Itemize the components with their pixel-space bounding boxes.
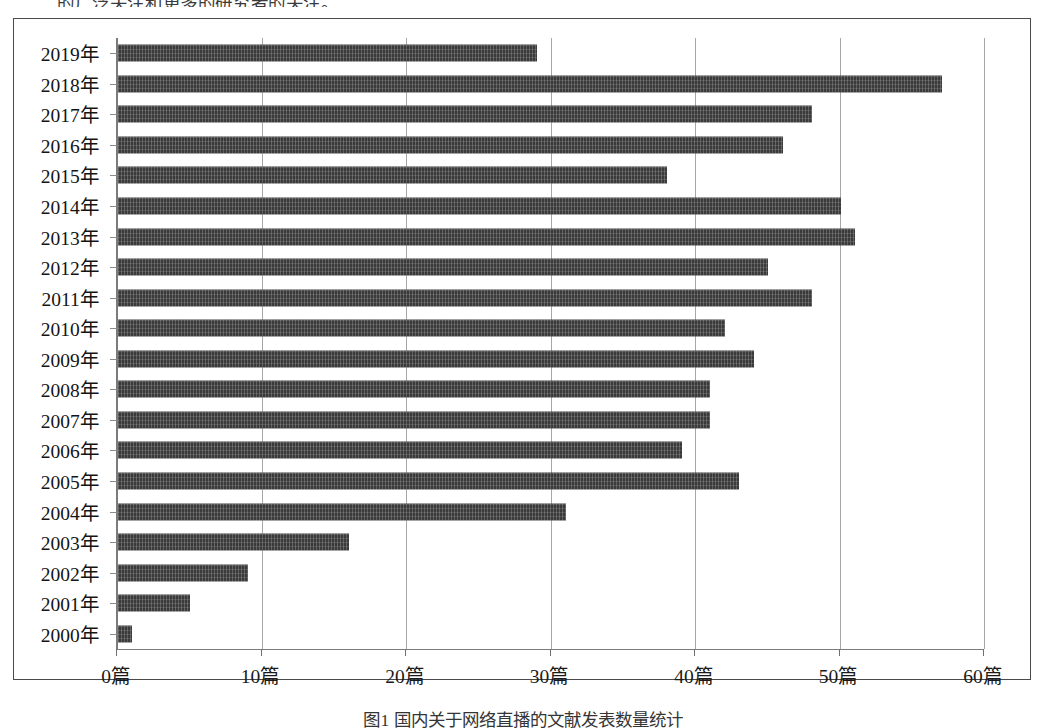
- y-tick-label-2017年: 2017年: [41, 99, 100, 128]
- chart-row: 2005年: [117, 466, 984, 497]
- y-tick: [110, 175, 117, 176]
- y-tick: [110, 145, 117, 146]
- chart-row: 2001年: [117, 588, 984, 619]
- x-tick-label-50: 50篇: [819, 660, 859, 689]
- gridline-60: [984, 38, 985, 649]
- chart-row: 2003年: [117, 527, 984, 558]
- bar-2018年: [118, 75, 942, 92]
- y-tick: [110, 84, 117, 85]
- bar-2004年: [118, 503, 566, 520]
- bar-2005年: [118, 472, 739, 489]
- x-tick-20: [405, 649, 406, 656]
- y-tick: [110, 389, 117, 390]
- chart-row: 2017年: [117, 99, 984, 130]
- chart-row: 2004年: [117, 496, 984, 527]
- y-tick: [110, 420, 117, 421]
- y-tick: [110, 206, 117, 207]
- y-tick-label-2013年: 2013年: [41, 221, 100, 250]
- y-tick-label-2006年: 2006年: [41, 435, 100, 464]
- chart-row: 2010年: [117, 313, 984, 344]
- y-tick-label-2012年: 2012年: [41, 252, 100, 281]
- x-tick-10: [261, 649, 262, 656]
- chart-row: 2007年: [117, 405, 984, 436]
- y-tick: [110, 53, 117, 54]
- y-tick-label-2016年: 2016年: [41, 130, 100, 159]
- bar-2013年: [118, 228, 855, 245]
- bar-2014年: [118, 198, 841, 215]
- x-tick-label-0: 0篇: [101, 660, 131, 689]
- y-tick-label-2007年: 2007年: [41, 405, 100, 434]
- chart-row: 2019年: [117, 38, 984, 69]
- x-tick-60: [983, 649, 984, 656]
- y-tick-label-2010年: 2010年: [41, 313, 100, 342]
- y-tick-label-2001年: 2001年: [41, 588, 100, 617]
- bar-2011年: [118, 289, 812, 306]
- y-tick-label-2019年: 2019年: [41, 38, 100, 67]
- bar-2003年: [118, 534, 349, 551]
- chart-row: 2000年: [117, 618, 984, 649]
- bar-2016年: [118, 136, 783, 153]
- chart-row: 2009年: [117, 344, 984, 375]
- y-tick: [110, 634, 117, 635]
- bar-2008年: [118, 381, 710, 398]
- x-tick-0: [116, 649, 117, 656]
- bar-2015年: [118, 167, 667, 184]
- y-tick-label-2000年: 2000年: [41, 619, 100, 648]
- plot-area: 2019年2018年2017年2016年2015年2014年2013年2012年…: [116, 38, 984, 649]
- x-tick-label-60: 60篇: [963, 660, 1003, 689]
- chart-row: 2013年: [117, 221, 984, 252]
- chart-row: 2011年: [117, 282, 984, 313]
- x-tick-label-20: 20篇: [385, 660, 425, 689]
- chart-row: 2002年: [117, 557, 984, 588]
- bar-2009年: [118, 350, 754, 367]
- y-tick-label-2009年: 2009年: [41, 344, 100, 373]
- x-tick-label-10: 10篇: [241, 660, 281, 689]
- y-tick: [110, 450, 117, 451]
- x-tick-label-30: 30篇: [530, 660, 570, 689]
- y-tick: [110, 573, 117, 574]
- y-tick: [110, 603, 117, 604]
- y-tick-label-2018年: 2018年: [41, 69, 100, 98]
- bar-2000年: [118, 625, 132, 642]
- chart-row: 2016年: [117, 130, 984, 161]
- y-tick: [110, 237, 117, 238]
- bar-2019年: [118, 45, 537, 62]
- bar-2012年: [118, 259, 768, 276]
- chart-row: 2015年: [117, 160, 984, 191]
- y-tick-label-2004年: 2004年: [41, 496, 100, 525]
- y-tick: [110, 481, 117, 482]
- y-tick-label-2014年: 2014年: [41, 191, 100, 220]
- y-tick-label-2002年: 2002年: [41, 558, 100, 587]
- y-tick-label-2011年: 2011年: [41, 283, 99, 312]
- y-tick: [110, 267, 117, 268]
- y-tick: [110, 328, 117, 329]
- chart-row: 2012年: [117, 252, 984, 283]
- y-tick: [110, 359, 117, 360]
- y-tick: [110, 114, 117, 115]
- x-tick-40: [694, 649, 695, 656]
- y-tick: [110, 298, 117, 299]
- y-tick-label-2008年: 2008年: [41, 374, 100, 403]
- chart-row: 2008年: [117, 374, 984, 405]
- y-tick-label-2005年: 2005年: [41, 466, 100, 495]
- y-tick-label-2003年: 2003年: [41, 527, 100, 556]
- x-tick-50: [839, 649, 840, 656]
- y-tick: [110, 542, 117, 543]
- page-top-text: 的广泛关注和更多的研究者的关注。: [57, 0, 487, 7]
- bar-2017年: [118, 106, 812, 123]
- x-tick-label-40: 40篇: [674, 660, 714, 689]
- chart-row: 2006年: [117, 435, 984, 466]
- figure-caption: 图1 国内关于网络直播的文献发表数量统计: [0, 706, 1046, 728]
- chart-row: 2014年: [117, 191, 984, 222]
- figure-frame: 2019年2018年2017年2016年2015年2014年2013年2012年…: [13, 18, 1031, 680]
- y-tick-label-2015年: 2015年: [41, 160, 100, 189]
- bar-2002年: [118, 564, 248, 581]
- bar-2007年: [118, 411, 710, 428]
- x-tick-30: [550, 649, 551, 656]
- bar-2010年: [118, 320, 725, 337]
- chart-row: 2018年: [117, 69, 984, 100]
- y-tick: [110, 512, 117, 513]
- bar-2001年: [118, 595, 190, 612]
- bar-2006年: [118, 442, 682, 459]
